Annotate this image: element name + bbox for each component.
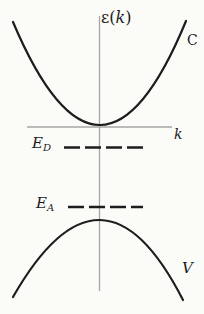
energy-axis-label-prefix: ε( bbox=[101, 8, 116, 27]
energy-axis-label: ε(k) bbox=[101, 9, 131, 27]
donor-level-label-subscript: D bbox=[43, 142, 51, 153]
donor-level-label: ED bbox=[32, 135, 51, 153]
energy-axis-label-variable: k bbox=[116, 8, 126, 27]
valence-band-label: V bbox=[182, 260, 193, 277]
valence-band-curve bbox=[13, 220, 183, 300]
conduction-band-label: C bbox=[187, 33, 198, 48]
acceptor-level-label-base: E bbox=[36, 194, 47, 212]
donor-level-label-base: E bbox=[32, 134, 43, 152]
acceptor-level-label-subscript: A bbox=[47, 202, 54, 213]
band-structure-diagram: ε(k) k C V ED EA bbox=[0, 0, 204, 314]
band-diagram-canvas bbox=[0, 0, 204, 314]
acceptor-level-label: EA bbox=[36, 195, 54, 213]
wavevector-axis-label: k bbox=[174, 127, 182, 142]
energy-axis-label-suffix: ) bbox=[125, 8, 131, 27]
